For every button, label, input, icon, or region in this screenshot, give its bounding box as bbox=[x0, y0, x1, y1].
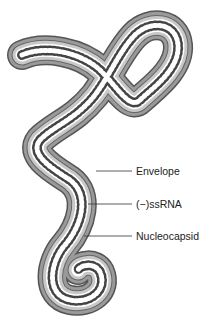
nucleocapsid-label: Nucleocapsid bbox=[136, 230, 199, 242]
envelope-label: Envelope bbox=[136, 165, 180, 177]
virus-body-illustration bbox=[0, 0, 218, 326]
ssrna-label: (−)ssRNA bbox=[136, 198, 182, 210]
virus-diagram: Envelope (−)ssRNA Nucleocapsid bbox=[0, 0, 218, 326]
